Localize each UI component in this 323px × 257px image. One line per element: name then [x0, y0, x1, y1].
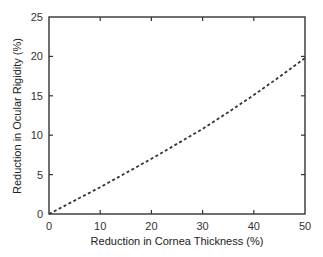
y-tick-label: 5: [37, 169, 43, 181]
y-tick-label: 25: [31, 11, 43, 23]
data-series-line: [49, 58, 305, 214]
x-tick-label: 30: [196, 220, 208, 232]
x-tick-label: 50: [299, 220, 311, 232]
x-tick-label: 0: [46, 220, 52, 232]
y-tick-label: 0: [37, 208, 43, 220]
y-tick-label: 15: [31, 90, 43, 102]
x-axis-label: Reduction in Cornea Thickness (%): [91, 235, 264, 247]
y-axis-label: Reduction in Ocular Rigidity (%): [11, 38, 23, 194]
plot-frame: [49, 17, 305, 214]
x-tick-label: 20: [145, 220, 157, 232]
y-tick-label: 20: [31, 50, 43, 62]
plot-area: [49, 17, 305, 214]
x-axis: 01020304050: [46, 17, 311, 232]
y-tick-label: 10: [31, 129, 43, 141]
x-tick-label: 10: [94, 220, 106, 232]
line-chart: 01020304050 0510152025 Reduction in Corn…: [0, 0, 323, 257]
y-axis: 0510152025: [31, 11, 305, 220]
x-tick-label: 40: [248, 220, 260, 232]
